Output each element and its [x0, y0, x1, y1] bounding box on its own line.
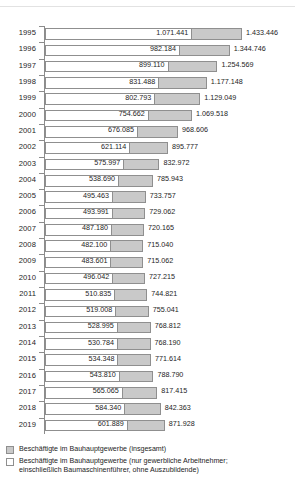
bar-value-workers: 530.784 [45, 338, 114, 347]
bar-value-workers: 754.662 [45, 109, 145, 118]
axis-tick [39, 222, 44, 223]
bar-value-workers: 482.100 [45, 240, 107, 249]
bar-value-total: 832.972 [163, 158, 189, 167]
chart-row: 1998831.4881.177.148 [0, 75, 295, 91]
bar-value-workers: 543.810 [45, 370, 116, 379]
axis-tick [39, 205, 44, 206]
legend-label-total-line1: Beschäftigte im Bauhauptgewerbe (insgesa… [19, 445, 166, 453]
bar-value-workers: 802.793 [45, 93, 151, 102]
bar-value-workers: 487.180 [45, 223, 108, 232]
year-label: 2019 [0, 420, 36, 429]
bar-value-total: 1.069.518 [196, 109, 228, 118]
bar-value-total: 1.344.746 [234, 44, 266, 53]
bar-value-total: 1.254.569 [221, 60, 253, 69]
axis-tick [39, 352, 44, 353]
year-label: 2017 [0, 387, 36, 396]
bar-value-total: 895.777 [172, 142, 198, 151]
axis-tick [39, 157, 44, 158]
chart-row: 2015534.348771.614 [0, 352, 295, 368]
bar-value-workers: 534.348 [45, 354, 114, 363]
year-label: 2016 [0, 371, 36, 380]
bar-value-workers: 565.065 [45, 386, 119, 395]
year-label: 2007 [0, 224, 36, 233]
bar-value-total: 817.415 [161, 386, 187, 395]
chart-row: 2012519.008755.041 [0, 303, 295, 319]
bar-value-workers: 676.085 [45, 125, 134, 134]
year-label: 2001 [0, 126, 36, 135]
bar-value-total: 755.041 [153, 305, 179, 314]
bar-value-total: 733.757 [150, 191, 176, 200]
chart-row: 2014530.784768.190 [0, 336, 295, 352]
chart-row: 2007487.180720.165 [0, 222, 295, 238]
year-label: 1999 [0, 93, 36, 102]
chart-row: 2006493.991729.062 [0, 205, 295, 221]
bar-value-workers: 495.463 [45, 191, 109, 200]
year-label: 2000 [0, 110, 36, 119]
bar-value-workers: 528.995 [45, 321, 114, 330]
axis-tick [39, 418, 44, 419]
chart-rows: 19951.071.4411.433.4461996982.1841.344.7… [0, 26, 295, 434]
bar-value-total: 788.790 [157, 370, 183, 379]
bar-value-total: 744.821 [151, 289, 177, 298]
chart-plot-area: 19951.071.4411.433.4461996982.1841.344.7… [0, 26, 295, 436]
legend-label-workers-line2: einschließlich Baumaschinenführer, ohne … [19, 466, 228, 475]
chart-row: 2018584.340842.363 [0, 401, 295, 417]
bar-value-total: 768.190 [155, 338, 181, 347]
chart-row: 2011510.835744.821 [0, 287, 295, 303]
year-label: 2010 [0, 273, 36, 282]
axis-tick [39, 336, 44, 337]
bar-value-total: 720.165 [148, 223, 174, 232]
legend-label-total: Beschäftigte im Bauhauptgewerbe (insgesa… [19, 445, 166, 454]
chart-row: 2019601.889871.928 [0, 418, 295, 434]
chart-legend: Beschäftigte im Bauhauptgewerbe (insgesa… [6, 445, 289, 478]
bar-value-workers: 496.042 [45, 272, 109, 281]
bar-value-workers: 601.889 [45, 419, 124, 428]
chart-row: 2013528.995768.812 [0, 320, 295, 336]
bar-value-workers: 831.488 [45, 77, 155, 86]
bar-value-workers: 510.835 [45, 289, 111, 298]
bar-value-workers: 1.071.441 [45, 28, 188, 37]
year-label: 2003 [0, 159, 36, 168]
bar-value-workers: 575.997 [45, 158, 120, 167]
year-label: 1998 [0, 77, 36, 86]
axis-tick [39, 254, 44, 255]
chart-row: 2002621.114895.777 [0, 140, 295, 156]
chart-row: 1997899.1101.254.569 [0, 59, 295, 75]
year-label: 2008 [0, 240, 36, 249]
bar-value-workers: 982.184 [45, 44, 176, 53]
top-divider [0, 6, 295, 7]
chart-row: 2003575.997832.972 [0, 157, 295, 173]
bar-value-total: 1.433.446 [246, 28, 278, 37]
year-label: 2018 [0, 403, 36, 412]
employment-bar-chart: 19951.071.4411.433.4461996982.1841.344.7… [0, 0, 295, 479]
axis-tick [39, 124, 44, 125]
year-label: 2011 [0, 289, 36, 298]
year-label: 2006 [0, 207, 36, 216]
chart-row: 2017565.065817.415 [0, 385, 295, 401]
chart-row: 2001676.085968.606 [0, 124, 295, 140]
chart-row: 2016543.810788.790 [0, 369, 295, 385]
bar-value-total: 1.177.148 [211, 77, 243, 86]
year-label: 2004 [0, 175, 36, 184]
year-label: 2013 [0, 322, 36, 331]
axis-tick [39, 108, 44, 109]
chart-row: 2010496.042727.215 [0, 271, 295, 287]
chart-row: 2004538.690785.943 [0, 173, 295, 189]
chart-row: 2008482.100715.040 [0, 238, 295, 254]
year-label: 2002 [0, 142, 36, 151]
bar-value-total: 968.606 [182, 125, 208, 134]
axis-tick [39, 303, 44, 304]
bar-value-total: 768.812 [155, 321, 181, 330]
axis-tick [39, 75, 44, 76]
legend-swatch-total-icon [6, 446, 14, 454]
bar-value-total: 771.614 [155, 354, 181, 363]
axis-tick [39, 189, 44, 190]
axis-tick [39, 173, 44, 174]
bar-value-workers: 493.991 [45, 207, 109, 216]
year-label: 1995 [0, 28, 36, 37]
chart-row: 1999802.7931.129.049 [0, 91, 295, 107]
bar-value-workers: 519.008 [45, 305, 112, 314]
year-label: 2009 [0, 256, 36, 265]
bar-value-total: 842.363 [165, 403, 191, 412]
chart-row: 1996982.1841.344.746 [0, 42, 295, 58]
